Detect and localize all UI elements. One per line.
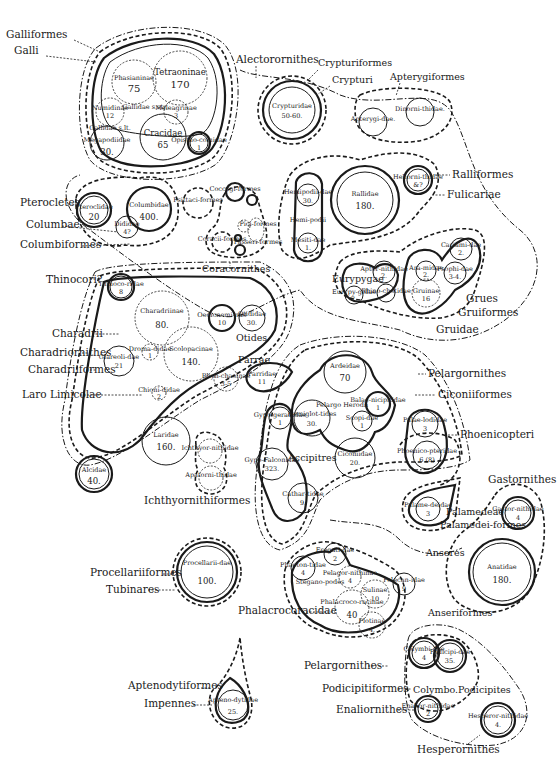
impennes-label: Impennes [144,697,196,709]
family-scolopacinae-count: 140. [182,357,201,367]
family-cathartidae-name: Cathar-tidae [282,490,324,498]
family-pelecanidae-name: Pelecan-idae [383,576,425,584]
otides-label: Otides [236,332,267,343]
family-alcidae-count: 40. [87,476,101,486]
columbae-label: Columbae [26,218,80,230]
pelargornithes-label: Pelargornithes [428,367,506,379]
gastornithes-label: Gastornithes [488,473,556,485]
family-parridae-name: Parridae [248,370,276,378]
family-podicipidae-count: 35. [445,657,455,665]
family-fregatidae-count: 2 [333,555,337,563]
family-ciconiidae-name: Ciconiidae [338,450,373,458]
palamedeae-label: Palamedeae [446,506,504,517]
family-apterygidae-name: Apterygi-dae. [350,115,395,123]
family-megapodiidae-name: Megapodiidae [84,136,131,144]
family-plotinae-name: Plotinae [359,617,386,625]
anseriformes-cluster [402,478,544,612]
pelargornithes-lower-label: Pelargornithes [304,659,382,671]
tubinares-label: Tubinares [106,583,160,595]
family-rallidae-name: Rallidae [351,190,378,198]
pterocletes-label: Pterocletes [20,196,80,208]
gruidae-label: Gruidae [436,323,479,335]
family-mesitidae-name: Mesiti-dae [291,236,326,244]
ichthyornithiformes-label: Ichthyornithiformes [144,494,250,506]
pelargo-herodii-label: Pelargo Herodii [316,401,368,409]
family-tetraoninae-count: 170 [170,79,189,90]
family-rhynchaeinae-count: 3-5 [221,380,231,388]
family-gypogeranidae-name: Gypo-geranidae [254,411,306,419]
family-phasianinae-name: Phasianinae [114,74,154,82]
crypturiformes-cluster [258,76,326,144]
family-parridae-count: 11 [258,378,266,386]
family-procellariidae-count: 100. [198,576,217,586]
family-mesitidae-count: 1. [305,244,311,252]
family-ichthyornithidae-name: Ichthyor-nithidae [181,444,238,452]
hesperornithes-label: Hesperornithes [417,743,500,755]
family-thinocoridae-name: Thinoco-ridae [98,280,144,288]
family-dinornithidae-name: Dinorni-thidae. [395,105,445,113]
family-phalacrocoracinae-count: 40 [347,610,358,620]
apterygiformes-label: Apterygiformes [389,71,465,82]
phalacrocoracidae-label: Phalacrocoracidae [238,604,337,616]
family-fregatidae-name: Fregati-dae [316,546,354,554]
family-pteroclidae-name: Pteroclidae [75,203,113,211]
family-glareolidae-count: 21 [115,362,123,370]
anseriformes-label: Anseriformes [427,607,492,618]
family-cariamidae-count: 2. [458,249,464,257]
family-pteroclidae-count: 20 [89,212,100,222]
family-heliornithidae-name: Heliorni-thidae [393,173,443,181]
family-crypturidae-name: Crypturidae [272,102,312,110]
family-columbidae-name: Columbidae [129,201,169,209]
family-palaelodidae-name: Palae-lodidae [403,416,447,424]
family-enaliornithidae-count: 2 [426,710,430,718]
family-otididae-count: 30. [247,319,257,327]
family-psophiidae-count: 3-4. [449,273,462,281]
gallidae-lat-label: Gallidae s.lt. [89,124,130,132]
family-meleagrinae-count: 3 [174,112,178,120]
procellariiformes-cluster [173,538,241,606]
colymbo-podicipites-label: Colymbo.Podicipites [413,684,511,695]
family-ardeidae-name: Ardeidae [329,362,360,370]
family-piciformes-name: Pici-formes [239,220,276,228]
family-anatidae-count: 180. [493,575,512,585]
family-scolopacinae-name: Scolopacinae [169,345,213,353]
family-palamedeidae-name: Palame-deidae [404,501,452,509]
galliformes-label: Galliformes [6,28,68,40]
crypturiformes-label: Crypturiformes [318,57,392,68]
ichthyornithiformes-cluster [195,432,226,494]
family-rhynchaeinae-name: Rhyn-chaeinae [202,372,251,380]
family-palaelodidae-count: 3 [423,425,427,433]
family-tetraoninae-name: Tetraoninae [154,67,205,77]
charadriiformes-label: Charadriiformes [28,363,116,375]
family-eurypygidae-count: 2. [351,295,357,303]
family-phasianinae-count: 75 [128,83,141,94]
family-palamedeidae-count: 3 [426,510,430,518]
family-pelagornithinae-name: Pelagor-nithinae [323,569,377,577]
family-pelecanidae-count: 9 [402,585,406,593]
family-hemipodiidae-name: Hemipodii-dae [284,188,332,196]
family-procellariidae-name: Procellarii-dae [183,559,231,567]
family-hesperornithidae-count: 4. [495,721,501,729]
enaliornithes-label: Enaliornithes [336,703,407,715]
family-meleagrinae-name: Meleagrinae [155,104,197,112]
family-didiidae-name: Dididae [114,220,140,228]
ciconiiformes-label: Ciconiiformes [438,388,512,400]
steganopodes-cluster [284,542,415,638]
aptenodytiformes-label: Aptenodytiformes [127,679,223,691]
family-gruinae-count: 16 [422,295,430,303]
family-numididae-count: 12 [106,112,114,120]
family-chionididae-count: 2 [157,393,161,401]
family-scopidae-count: 1 [360,422,364,430]
procellariiformes-label: Procellariiformes [90,566,182,578]
family-opisthocomidae-name: Opistho-comidae [171,136,227,144]
family-phoenicopteridae-name: Phoenico-pteridae [397,447,457,455]
columbiformes-label: Columbiformes [20,238,101,250]
parrae-label: Parrae [238,354,270,365]
family-phaethontidae-name: Phaeton-tidae [280,561,326,569]
family-plotinae-count: 4. [369,626,375,634]
crypturi-label: Crypturi [332,74,373,85]
family-sulinae-name: Sulinae [363,586,388,594]
family-crypturidae-count: 50-60. [282,112,303,120]
family-colymbidae-count: 4 [422,654,426,662]
family-anatidae-name: Anatidae [486,563,516,571]
